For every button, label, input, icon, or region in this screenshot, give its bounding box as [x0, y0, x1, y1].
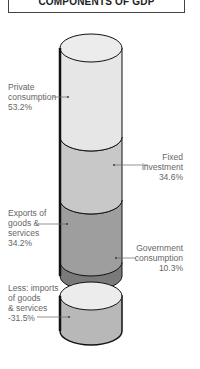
segment-private-consumption [60, 48, 122, 151]
label-imports: Less: imports of goods & services -31.5% [8, 283, 59, 323]
imports-top [60, 282, 122, 310]
cylinder-top [60, 34, 122, 62]
label-government-consumption: Government consumption 10.3% [135, 243, 183, 273]
label-private-consumption: Private consumption 53.2% [8, 82, 56, 112]
label-exports: Exports of goods & services 34.2% [8, 208, 46, 248]
label-fixed-investment: Fixed investment 34.6% [142, 152, 183, 182]
